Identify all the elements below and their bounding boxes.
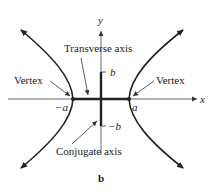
figure-caption: b	[98, 172, 104, 184]
vertex-right-label: Vertex	[156, 74, 185, 86]
neg-a-label: −a	[55, 101, 68, 113]
vertex-right-pointer	[133, 81, 154, 96]
transverse-axis-label: Transverse axis	[64, 42, 132, 54]
left-vertex-point	[71, 97, 75, 101]
conjugate-axis-pointer	[72, 121, 97, 144]
vertex-left-label: Vertex	[14, 74, 43, 86]
x-axis-label: x	[199, 93, 205, 105]
neg-b-label: −b	[108, 120, 121, 132]
right-branch-upper	[129, 30, 183, 99]
y-axis-label: y	[97, 14, 103, 26]
hyperbola-diagram: x y −a a b −b Transverse axis Vertex Ver…	[0, 0, 215, 194]
vertex-left-pointer	[50, 81, 70, 96]
right-vertex-point	[127, 97, 131, 101]
left-branch-upper	[21, 30, 73, 99]
conjugate-axis-label: Conjugate axis	[56, 145, 122, 157]
a-label: a	[132, 101, 138, 113]
b-label: b	[110, 66, 116, 78]
transverse-axis-pointer	[81, 58, 88, 95]
